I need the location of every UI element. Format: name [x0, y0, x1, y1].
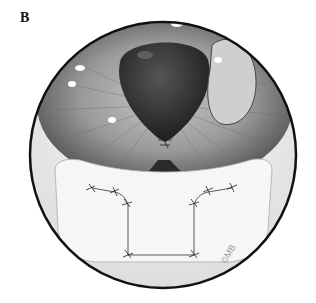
- scleral-flap: [55, 159, 272, 262]
- eye-illustration: ©MB: [0, 0, 316, 303]
